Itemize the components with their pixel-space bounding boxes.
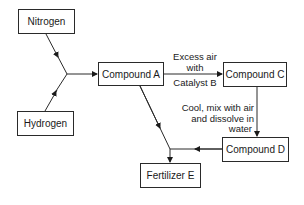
node-compound-d: Compound D bbox=[222, 137, 289, 162]
edge-label-line: Catalyst B bbox=[170, 78, 220, 89]
node-hydrogen: Hydrogen bbox=[17, 111, 74, 136]
node-compound-c: Compound C bbox=[223, 62, 287, 87]
edge-label-line: Excess air bbox=[172, 52, 218, 63]
node-fertilizer-e: Fertilizer E bbox=[140, 163, 201, 188]
edge-label-line: with bbox=[172, 63, 218, 74]
node-nitrogen: Nitrogen bbox=[18, 9, 75, 34]
node-compound-a: Compound A bbox=[98, 62, 164, 86]
edge-label-line: Cool, mix with air bbox=[172, 103, 254, 114]
edge-label-line: water bbox=[172, 124, 252, 135]
